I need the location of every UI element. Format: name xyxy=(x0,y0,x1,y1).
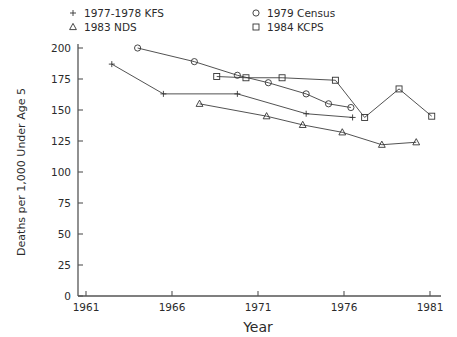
x-tick-label: 1981 xyxy=(417,301,444,313)
y-tick-label: 100 xyxy=(51,166,71,178)
legend-entry: 1977-1978 KFS xyxy=(70,7,164,19)
chart-figure: 1977-1978 KFS1983 NDS1979 Census1984 KCP… xyxy=(0,0,457,337)
legend-label: 1983 NDS xyxy=(84,21,137,33)
data-point-triangle xyxy=(413,139,420,145)
legend-marker-triangle xyxy=(70,23,77,29)
chart-legend: 1977-1978 KFS1983 NDS1979 Census1984 KCP… xyxy=(70,7,336,33)
chart-series xyxy=(109,45,435,147)
legend-marker-square xyxy=(253,24,259,30)
x-axis-title: Year xyxy=(242,319,273,335)
legend-entry: 1979 Census xyxy=(253,7,335,19)
data-point-plus xyxy=(303,111,309,117)
chart-axes: 0255075100125150175200196119661971197619… xyxy=(51,42,443,313)
series-plus xyxy=(109,61,356,120)
chart-canvas: 1977-1978 KFS1983 NDS1979 Census1984 KCP… xyxy=(0,0,457,337)
y-tick-label: 50 xyxy=(58,228,71,240)
y-tick-label: 0 xyxy=(64,290,71,302)
legend-label: 1984 KCPS xyxy=(267,21,324,33)
y-tick-label: 25 xyxy=(58,259,71,271)
x-tick-label: 1966 xyxy=(159,301,186,313)
data-point-plus xyxy=(234,91,240,97)
legend-marker-circle xyxy=(253,10,259,16)
data-point-plus xyxy=(160,91,166,97)
series-triangle xyxy=(196,100,420,147)
legend-marker-plus xyxy=(70,10,76,16)
series-line xyxy=(200,104,417,145)
legend-label: 1977-1978 KFS xyxy=(84,7,164,19)
y-tick-label: 125 xyxy=(51,135,71,147)
legend-label: 1979 Census xyxy=(267,7,335,19)
x-tick-label: 1961 xyxy=(73,301,100,313)
x-tick-label: 1971 xyxy=(245,301,272,313)
data-point-triangle xyxy=(196,100,203,106)
y-tick-label: 75 xyxy=(58,197,71,209)
chart-axis-titles: YearDeaths per 1,000 Under Age 5 xyxy=(15,88,273,335)
data-point-plus xyxy=(350,114,356,120)
y-tick-label: 175 xyxy=(51,73,71,85)
data-point-plus xyxy=(109,61,115,67)
y-axis-title: Deaths per 1,000 Under Age 5 xyxy=(15,88,28,256)
y-tick-label: 150 xyxy=(51,104,71,116)
y-tick-label: 200 xyxy=(51,42,71,54)
legend-entry: 1984 KCPS xyxy=(253,21,324,33)
x-tick-label: 1976 xyxy=(331,301,358,313)
legend-entry: 1983 NDS xyxy=(70,21,137,33)
